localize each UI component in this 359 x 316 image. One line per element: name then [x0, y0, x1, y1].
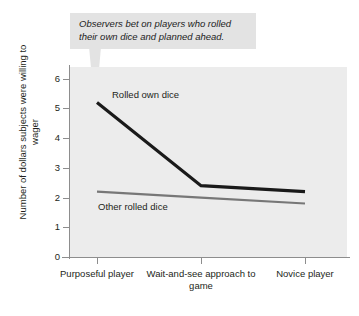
x-axis-line: [62, 257, 350, 258]
y-tick-label-1: 1: [38, 222, 60, 232]
series-label-other-rolled-dice: Other rolled dice: [98, 201, 168, 212]
y-tick-label-4: 4: [38, 133, 60, 143]
x-tick-label-novice-player: Novice player: [250, 268, 359, 280]
x-tick-mark-0: [97, 258, 98, 264]
y-tick-label-3: 3: [38, 163, 60, 173]
chart-figure: Observers bet on players who rolled thei…: [0, 0, 359, 316]
y-tick-label-0: 0: [38, 252, 60, 262]
y-tick-mark-4: [63, 138, 69, 139]
y-tick-mark-3: [63, 168, 69, 169]
y-tick-mark-2: [63, 198, 69, 199]
y-tick-mark-1: [63, 227, 69, 228]
y-tick-label-6: 6: [38, 74, 60, 84]
y-tick-mark-5: [63, 108, 69, 109]
x-tick-mark-2: [305, 258, 306, 264]
y-axis-title: Number of dollars subjects were willing …: [17, 42, 41, 222]
y-tick-label-2: 2: [38, 193, 60, 203]
y-tick-mark-0: [63, 257, 69, 258]
x-tick-mark-1: [201, 258, 202, 264]
x-tick-label-purposeful-player: Purposeful player: [42, 268, 152, 280]
y-axis-line: [69, 65, 70, 259]
series-label-rolled-own-dice: Rolled own dice: [112, 89, 179, 100]
callout-annotation: Observers bet on players who rolled thei…: [70, 13, 256, 49]
x-tick-label-wait-and-see: Wait-and-see approach to game: [146, 268, 256, 291]
y-tick-mark-6: [63, 79, 69, 80]
y-tick-label-5: 5: [38, 103, 60, 113]
